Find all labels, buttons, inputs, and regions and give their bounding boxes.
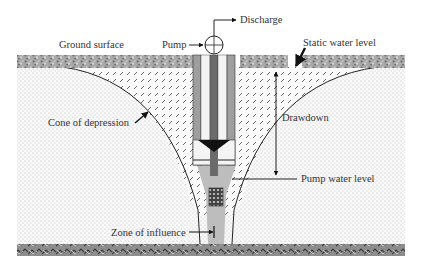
well-casing (193, 55, 235, 176)
pump-label: Pump (162, 39, 187, 51)
well-drawdown-diagram: Discharge Pump Ground surface Static wat… (0, 0, 421, 271)
drawdown-label: Drawdown (282, 112, 329, 124)
pump-icon (205, 36, 223, 54)
static-water-level-label: Static water level (303, 37, 376, 49)
bedrock-layer (17, 244, 405, 256)
ground-surface-layer (17, 55, 193, 68)
pump-water-level-label: Pump water level (301, 173, 374, 185)
ground-surface-label: Ground surface (59, 39, 124, 51)
zone-of-influence-label: Zone of influence (111, 227, 186, 239)
discharge-arrow (214, 20, 236, 36)
well-screen (209, 188, 223, 206)
cone-of-depression-label: Cone of depression (48, 117, 129, 129)
discharge-label: Discharge (240, 14, 282, 26)
